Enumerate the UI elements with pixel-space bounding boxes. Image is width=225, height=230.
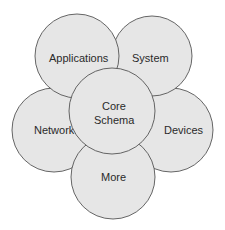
applications-label: Applications <box>49 52 109 64</box>
core-label-line1: Core <box>102 100 126 112</box>
devices-label: Devices <box>164 124 204 136</box>
system-label: System <box>132 52 169 64</box>
network-label: Network <box>34 124 75 136</box>
circle-core-schema: Core Schema <box>69 68 155 154</box>
schema-diagram: Network Devices System Applications More… <box>0 0 225 230</box>
core-label-line2: Schema <box>94 114 135 126</box>
more-label: More <box>101 171 126 183</box>
